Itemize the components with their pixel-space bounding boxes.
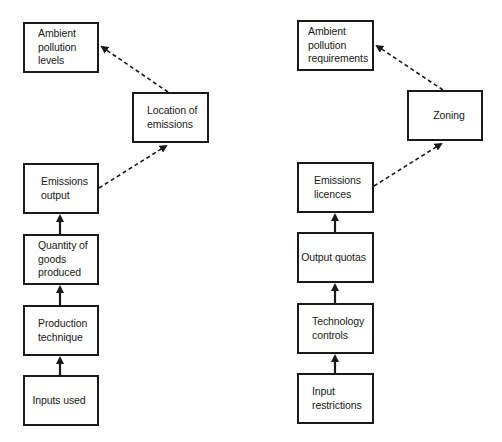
arrow-zoning-to-ambient-requirements <box>377 46 443 90</box>
node-label: Input restrictions <box>299 385 366 412</box>
node-label: Quantity of goods produced <box>25 239 92 280</box>
node-label: Ambient pollution requirements <box>299 25 372 66</box>
node-label: Production technique <box>25 317 91 344</box>
node-emissions-output: Emissions output <box>23 163 99 214</box>
node-label: Ambient pollution levels <box>25 27 80 68</box>
arrow-licences-to-zoning <box>374 144 441 186</box>
node-technology-controls: Technology controls <box>297 303 374 354</box>
node-output-quotas: Output quotas <box>297 232 374 283</box>
node-label: Location of emissions <box>134 104 201 131</box>
node-label: Technology controls <box>299 315 368 342</box>
node-production-technique: Production technique <box>23 305 99 356</box>
node-label: Zoning <box>421 109 469 123</box>
node-zoning: Zoning <box>407 90 483 141</box>
node-label: Output quotas <box>301 251 370 265</box>
node-input-restrictions: Input restrictions <box>297 373 374 424</box>
node-label: Inputs used <box>32 394 89 408</box>
node-inputs-used: Inputs used <box>23 375 99 426</box>
arrow-location-to-ambient-levels <box>102 47 168 92</box>
node-ambient-pollution-levels: Ambient pollution levels <box>23 22 99 73</box>
node-label: Emissions licences <box>299 174 365 201</box>
node-quantity-of-goods-produced: Quantity of goods produced <box>23 234 99 285</box>
node-label: Emissions output <box>25 175 92 202</box>
node-location-of-emissions: Location of emissions <box>132 92 209 143</box>
node-emissions-licences: Emissions licences <box>297 162 374 213</box>
node-ambient-pollution-requirements: Ambient pollution requirements <box>297 20 374 71</box>
arrow-emissions-output-to-location <box>99 146 166 188</box>
